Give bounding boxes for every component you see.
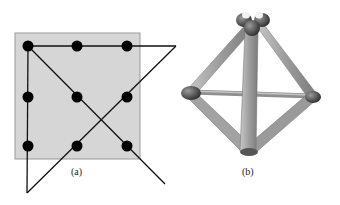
nine-dot-puzzle (15, 33, 176, 193)
top-highlight (255, 12, 263, 19)
puzzle-dot (122, 141, 133, 152)
puzzle-dot (23, 92, 34, 103)
panel-a-label: (a) (71, 166, 82, 177)
puzzle-dot (122, 92, 133, 103)
vertex-top (244, 20, 260, 36)
puzzle-dot (72, 41, 83, 52)
figure-canvas (0, 0, 340, 205)
puzzle-dot (23, 41, 34, 52)
vertex-left (181, 86, 201, 100)
vertex-right (305, 91, 321, 103)
vertex-bottom (240, 148, 258, 156)
puzzle-dot (23, 141, 34, 152)
rod-top-left (187, 24, 252, 96)
rod-right-bottom (248, 92, 316, 154)
tetrahedron-model (181, 12, 321, 157)
puzzle-dot (122, 41, 133, 52)
puzzle-dot (72, 141, 83, 152)
puzzle-dot (72, 92, 83, 103)
top-highlight (242, 12, 250, 19)
rod-top-right (255, 22, 316, 99)
panel-b-label: (b) (242, 166, 254, 177)
rod-top-bottom (240, 30, 258, 151)
